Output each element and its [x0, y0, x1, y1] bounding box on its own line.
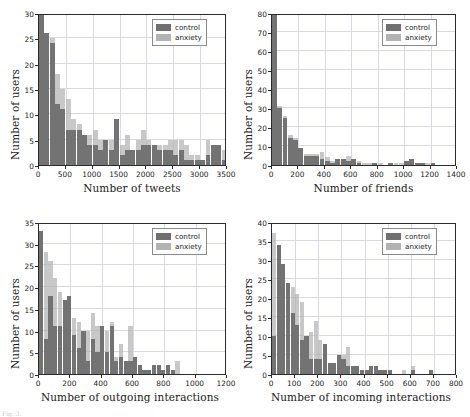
y-tick-label: 25 — [14, 35, 34, 44]
legend-friends: control anxiety — [382, 19, 437, 46]
y-tickmark — [268, 14, 271, 15]
legend-label-anxiety: anxiety — [175, 242, 202, 251]
y-tick-label: 20 — [14, 284, 34, 293]
y-tick-label: 15 — [247, 314, 267, 323]
y-tick-label: 40 — [247, 219, 267, 228]
histogram-bar-anxiety — [399, 163, 404, 165]
x-tickmark — [69, 375, 70, 378]
histogram-bar-control — [383, 370, 387, 374]
x-tick-label: 2000 — [136, 170, 155, 179]
x-tickmark — [403, 166, 404, 169]
y-tickmark — [268, 52, 271, 53]
x-tick-label: 500 — [58, 170, 72, 179]
figure-caption: Fig. 3. — [2, 410, 21, 417]
histogram-bar-control — [130, 150, 135, 165]
gridline-horizontal — [272, 69, 455, 70]
histogram-bar-control — [335, 159, 340, 165]
y-tick-label: 30 — [247, 105, 267, 114]
histogram-bar-control — [173, 155, 178, 165]
histogram-bar-control — [216, 145, 221, 165]
y-tick-label: 0 — [14, 371, 34, 380]
legend-label-control: control — [405, 23, 430, 32]
histogram-bar-control — [355, 366, 359, 374]
y-tickmark — [35, 14, 38, 15]
y-tick-label: 0 — [247, 371, 267, 380]
x-tick-label: 1000 — [185, 379, 204, 388]
y-tick-label: 15 — [14, 305, 34, 314]
legend-item-control: control — [156, 23, 202, 32]
histogram-bar-control — [39, 14, 44, 165]
histogram-bar-control — [293, 140, 298, 165]
x-tickmark — [387, 375, 388, 378]
histogram-bar-control — [332, 363, 336, 374]
x-tick-label: 500 — [380, 379, 394, 388]
y-tick-label: 0 — [247, 162, 267, 171]
x-tick-label: 0 — [36, 379, 41, 388]
y-tickmark — [268, 128, 271, 129]
x-tickmark — [101, 375, 102, 378]
histogram-bar-control — [351, 366, 355, 374]
histogram-bar-control — [147, 370, 151, 374]
y-tickmark — [35, 245, 38, 246]
x-tickmark — [65, 166, 66, 169]
x-tickmark — [317, 375, 318, 378]
legend-swatch-control-icon — [386, 233, 401, 240]
legend-swatch-anxiety-icon — [386, 243, 401, 250]
histogram-bar-control — [360, 370, 364, 374]
histogram-bar-control — [152, 145, 157, 165]
histogram-bar-control — [222, 160, 226, 165]
histogram-bar-control — [44, 339, 48, 374]
histogram-bar-anxiety — [378, 163, 383, 165]
gridline-vertical — [365, 224, 366, 374]
y-tickmark — [35, 310, 38, 311]
histogram-bar-control — [166, 365, 170, 374]
histogram-bar-control — [320, 159, 325, 165]
x-tickmark — [433, 375, 434, 378]
gridline-vertical — [325, 15, 326, 165]
x-tickmark — [163, 375, 164, 378]
legend-label-anxiety: anxiety — [405, 33, 432, 42]
y-tickmark — [268, 242, 271, 243]
y-tickmark — [268, 299, 271, 300]
gridline-vertical — [341, 224, 342, 374]
x-tick-label: 800 — [370, 170, 384, 179]
x-tick-label: 800 — [156, 379, 170, 388]
y-tick-label: 20 — [247, 124, 267, 133]
histogram-bar-control — [420, 163, 425, 165]
histogram-bar-control — [86, 361, 90, 374]
y-tickmark — [35, 353, 38, 354]
legend-item-control: control — [386, 23, 432, 32]
histogram-bar-control — [179, 150, 184, 165]
histogram-bar-control — [138, 365, 142, 374]
x-tickmark — [271, 375, 272, 378]
y-tickmark — [35, 288, 38, 289]
histogram-bar-control — [378, 370, 382, 374]
histogram-bar-control — [357, 163, 362, 165]
y-tickmark — [35, 166, 38, 167]
legend-label-anxiety: anxiety — [405, 242, 432, 251]
y-tickmark — [35, 115, 38, 116]
histogram-bar-control — [300, 340, 304, 374]
histogram-bar-control — [309, 156, 314, 166]
legend-label-control: control — [175, 232, 200, 241]
y-tickmark — [35, 141, 38, 142]
histogram-bar-anxiety — [362, 163, 367, 165]
gridline-horizontal — [272, 259, 455, 260]
histogram-bar-control — [114, 119, 119, 165]
histogram-bar-control — [58, 326, 62, 374]
histogram-bar-control — [346, 366, 350, 374]
legend-label-control: control — [175, 23, 200, 32]
x-tick-label: 1500 — [109, 170, 128, 179]
x-tickmark — [195, 375, 196, 378]
y-tick-label: 10 — [14, 111, 34, 120]
x-tick-label: 600 — [343, 170, 357, 179]
y-tick-label: 20 — [14, 60, 34, 69]
legend-item-anxiety: anxiety — [386, 242, 432, 251]
histogram-bar-control — [281, 264, 285, 374]
histogram-bar-control — [318, 359, 322, 374]
gridline-horizontal — [272, 88, 455, 89]
legend-item-anxiety: anxiety — [386, 33, 432, 42]
y-tickmark — [268, 90, 271, 91]
histogram-bar-control — [330, 163, 335, 165]
